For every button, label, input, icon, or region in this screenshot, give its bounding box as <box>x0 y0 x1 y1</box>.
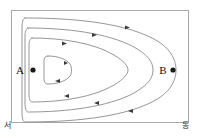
point-a-dot <box>30 67 35 72</box>
isobar-svg-canvas: A B 서 동 <box>0 0 200 137</box>
direction-label-east: 동 <box>182 121 189 130</box>
point-b-label: B <box>159 64 166 76</box>
point-a-label: A <box>16 64 24 76</box>
point-b-dot <box>170 67 175 72</box>
direction-label-west: 서 <box>4 121 11 130</box>
isobar-figure: A B 서 동 <box>0 0 200 137</box>
